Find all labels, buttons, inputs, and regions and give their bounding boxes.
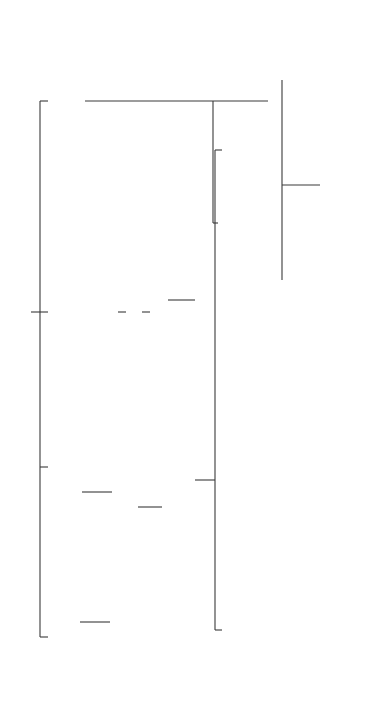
family-tree-diagram — [0, 0, 372, 725]
edward-iii-node — [6, 272, 8, 352]
tree-connector-lines — [0, 0, 372, 725]
